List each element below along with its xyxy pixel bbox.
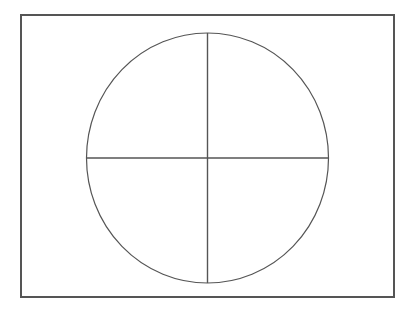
figure-svg	[0, 0, 414, 318]
diagram-canvas	[0, 0, 414, 318]
